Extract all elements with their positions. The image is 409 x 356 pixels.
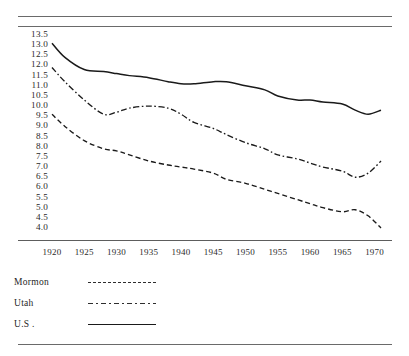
legend-item-utah: Utah	[14, 297, 244, 315]
chart-legend: Mormon Utah U.S .	[0, 276, 409, 338]
legend-label-mormon: Mormon	[14, 276, 49, 289]
x-tick-label: 1955	[268, 247, 287, 258]
x-tick-label: 1950	[236, 247, 255, 258]
header-rule-bottom	[18, 26, 392, 27]
series-line-utah	[52, 68, 381, 178]
header-rule-top	[18, 16, 392, 17]
x-tick-label: 1920	[43, 247, 62, 258]
series-line-u-s	[52, 43, 381, 114]
x-tick-label: 1965	[333, 247, 352, 258]
legend-swatch-solid-icon	[88, 324, 156, 327]
line-chart-plot-area	[0, 28, 409, 240]
x-tick-label: 1960	[301, 247, 320, 258]
footer-rule	[18, 344, 392, 345]
x-tick-label: 1935	[139, 247, 158, 258]
legend-item-mormon: Mormon	[14, 276, 244, 294]
figure-page: 13.513.012.512.011.511.010.510.09.59.08.…	[0, 0, 409, 356]
x-tick-label: 1945	[204, 247, 223, 258]
x-tick-label: 1925	[75, 247, 94, 258]
legend-swatch-dashed-icon	[88, 282, 156, 285]
series-line-mormon	[52, 114, 381, 228]
x-tick-label: 1940	[172, 247, 191, 258]
legend-label-utah: Utah	[14, 297, 34, 310]
x-tick-label: 1970	[365, 247, 384, 258]
x-axis-line	[18, 240, 392, 241]
legend-item-us: U.S .	[14, 318, 244, 336]
legend-swatch-dashdot-icon	[88, 303, 156, 305]
legend-label-us: U.S .	[14, 318, 35, 331]
x-axis-tick-labels: 1920192519301935194019451950195519601965…	[0, 247, 409, 261]
chart-svg	[0, 28, 409, 240]
x-tick-label: 1930	[107, 247, 126, 258]
